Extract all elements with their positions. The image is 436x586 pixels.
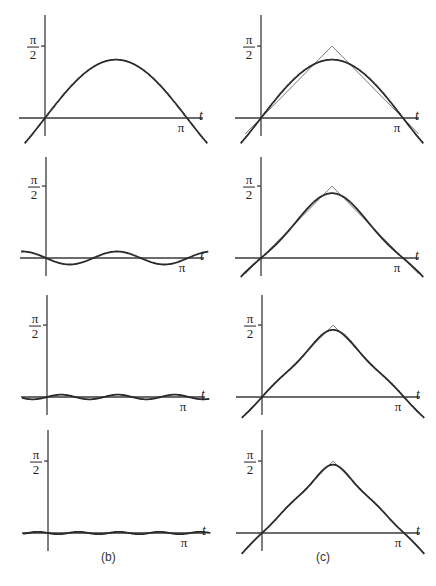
- x-axis-label: t: [202, 523, 207, 538]
- panel-b3: π2πt: [21, 295, 209, 415]
- y-tick-label-num: π: [246, 172, 253, 187]
- x-axis-label: t: [415, 248, 420, 263]
- y-tick-label-den: 2: [247, 462, 254, 477]
- panel-c3: π2πt: [236, 295, 424, 418]
- x-axis-label: t: [199, 108, 204, 123]
- y-tick-label-den: 2: [30, 47, 37, 62]
- caption-c: (c): [316, 550, 330, 564]
- panel-b4: π2πt: [22, 430, 210, 551]
- y-tick-label-num: π: [30, 32, 37, 47]
- panel-c1: π2πt: [235, 15, 423, 143]
- x-tick-label-pi: π: [395, 535, 402, 550]
- x-axis-label: t: [416, 523, 421, 538]
- x-tick-label-pi: π: [181, 535, 188, 550]
- x-tick-label-pi: π: [178, 120, 185, 135]
- x-axis-label: t: [415, 108, 420, 123]
- y-tick-label-den: 2: [246, 47, 253, 62]
- y-tick-label-num: π: [246, 32, 253, 47]
- x-tick-label-pi: π: [394, 260, 401, 275]
- x-tick-label-pi: π: [394, 120, 401, 135]
- y-tick-label-num: π: [32, 311, 39, 326]
- triangle-wave-line: [245, 186, 419, 274]
- y-tick-label-den: 2: [246, 187, 253, 202]
- x-tick-label-pi: π: [180, 399, 187, 414]
- fourier-series-figure: π2πtπ2πtπ2πtπ2πtπ2πtπ2πtπ2πtπ2πt: [0, 0, 436, 586]
- x-axis-label: t: [200, 248, 205, 263]
- panel-b1: π2πt: [19, 15, 207, 143]
- panel-b2: π2πt: [20, 157, 208, 276]
- y-tick-label-den: 2: [32, 326, 39, 341]
- x-axis-label: t: [416, 387, 421, 402]
- y-tick-label-den: 2: [31, 187, 38, 202]
- panel-c4: π2πt: [236, 430, 424, 554]
- y-tick-label-den: 2: [33, 462, 40, 477]
- y-tick-label-num: π: [247, 311, 254, 326]
- y-tick-label-den: 2: [247, 326, 254, 341]
- panel-c2: π2πt: [235, 157, 423, 277]
- y-tick-label-num: π: [247, 447, 254, 462]
- x-tick-label-pi: π: [395, 399, 402, 414]
- triangle-wave-line: [246, 461, 420, 549]
- y-tick-label-num: π: [33, 447, 40, 462]
- caption-b: (b): [101, 550, 116, 564]
- triangle-wave-line: [246, 325, 420, 413]
- y-tick-label-num: π: [31, 172, 38, 187]
